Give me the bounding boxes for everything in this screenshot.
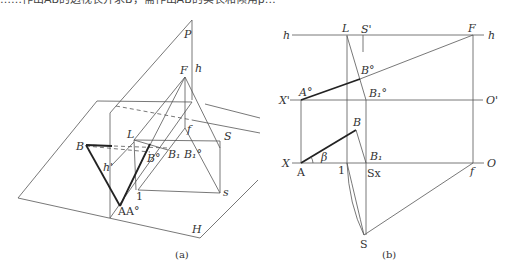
label-B: B: [352, 116, 361, 129]
label-1: 1: [338, 164, 345, 177]
label-F: F: [179, 64, 188, 77]
label-F: F: [467, 22, 476, 35]
label-B-double-prime: B°: [360, 64, 375, 77]
label-X-prime: X': [278, 94, 290, 107]
label-O-prime: O': [486, 94, 498, 107]
line-L-B1: [134, 140, 168, 150]
diagram-canvas: P F h f L S B h' B° B₁ B₁° 1 s AA° H (a): [0, 0, 505, 272]
label-B-double-prime: B°: [146, 152, 161, 165]
label-A: A: [296, 166, 306, 179]
label-f: f: [186, 123, 193, 136]
label-beta: β: [320, 151, 327, 164]
label-h-right: h: [488, 29, 495, 42]
label-B1-B1: B₁ B₁°: [167, 148, 202, 161]
line-h-prime: [112, 142, 134, 165]
label-H: H: [191, 223, 202, 236]
segment-AB: [301, 130, 356, 163]
beta-angle-arc: [311, 157, 313, 163]
label-f: f: [469, 165, 476, 178]
line-F-Bdd: [360, 35, 473, 79]
label-AA: AA°: [117, 205, 139, 218]
caption-a: (a): [175, 249, 189, 260]
label-B1: B₁: [369, 150, 383, 163]
label-L: L: [341, 22, 349, 35]
line-L-S: [134, 140, 220, 141]
label-B: B: [75, 140, 84, 153]
segment-A-Bdd: [120, 144, 150, 206]
label-X: X: [281, 157, 291, 170]
caption-b: (b): [382, 249, 396, 260]
label-Sx: Sx: [367, 167, 382, 180]
label-B1-double-prime: B₁°: [368, 87, 387, 100]
ground-plane-top-edge: [97, 101, 192, 102]
label-S: S: [224, 130, 232, 143]
label-O: O: [487, 157, 496, 170]
picture-plane-slant-edge: [116, 20, 192, 106]
label-1: 1: [136, 190, 143, 203]
label-S-prime: S': [361, 23, 372, 36]
label-L: L: [126, 128, 134, 141]
label-A-double-prime: A°: [298, 86, 312, 99]
figure-b: h h L S' F B° A° B₁° X' O' B X A β B₁ O …: [278, 22, 498, 260]
arc-1-S-inner: [347, 163, 364, 235]
label-P: P: [183, 28, 192, 41]
ground-plane-top-edge-right: [205, 104, 260, 118]
figure-a: P F h f L S B h' B° B₁ B₁° 1 s AA° H (a): [18, 20, 260, 260]
line-1-s: [138, 190, 220, 193]
label-h-left: h: [283, 29, 290, 42]
line-B-B1: [356, 130, 366, 163]
label-h-prime: h': [103, 161, 113, 174]
label-S: S: [360, 238, 368, 251]
hidden-horizon-edge: [116, 106, 192, 120]
segment-AB: [86, 145, 120, 206]
label-h-top: h: [195, 62, 202, 75]
label-s: s: [223, 186, 229, 199]
line-F-L: [134, 77, 185, 140]
